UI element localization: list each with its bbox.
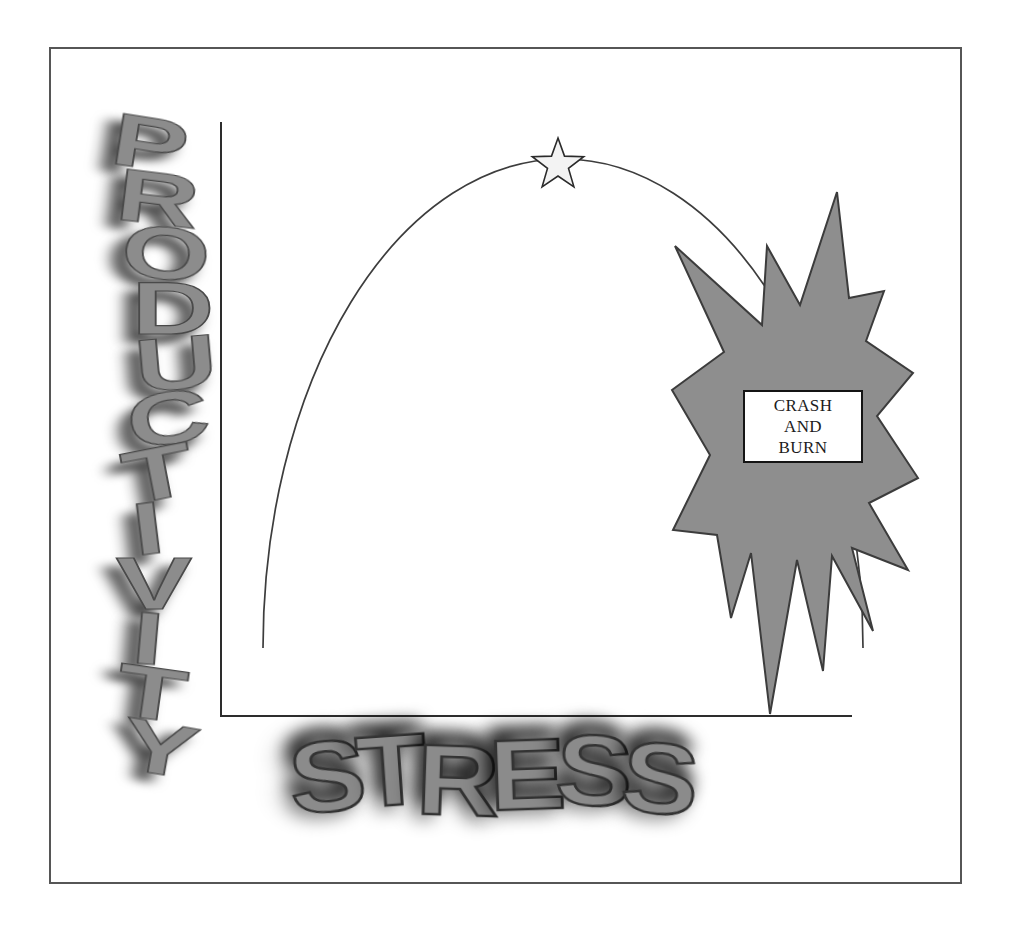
- crash-annotation-box: CRASH AND BURN: [743, 390, 863, 463]
- crash-line-3: BURN: [779, 437, 828, 458]
- star-icon: [532, 138, 583, 187]
- diagram-page: CRASH AND BURN PRODUCTIVITY STRESS: [0, 0, 1010, 927]
- wordart-letter: S: [618, 727, 703, 829]
- y-axis-label-productivity: PRODUCTIVITY: [112, 116, 222, 776]
- wordart-letter: Y: [97, 711, 223, 786]
- crash-line-1: CRASH: [774, 395, 833, 416]
- x-axis-label-stress: STRESS: [294, 726, 694, 822]
- crash-line-2: AND: [784, 416, 822, 437]
